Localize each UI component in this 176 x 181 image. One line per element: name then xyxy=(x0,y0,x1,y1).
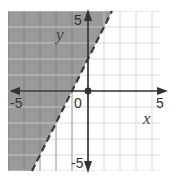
x-max-label: 5 xyxy=(156,95,164,111)
x-min-label: -5 xyxy=(10,95,23,111)
x-axis-label: x xyxy=(142,109,151,128)
y-max-label: 5 xyxy=(74,12,82,28)
arrow-right-icon xyxy=(157,87,168,95)
y-min-label: -5 xyxy=(71,155,84,171)
y-axis-label: y xyxy=(54,25,64,44)
origin-label: 0 xyxy=(74,95,82,111)
arrow-down-icon xyxy=(84,161,92,173)
origin-point xyxy=(85,88,92,95)
coordinate-plane: 5 -5 -5 5 0 y x xyxy=(0,0,176,181)
